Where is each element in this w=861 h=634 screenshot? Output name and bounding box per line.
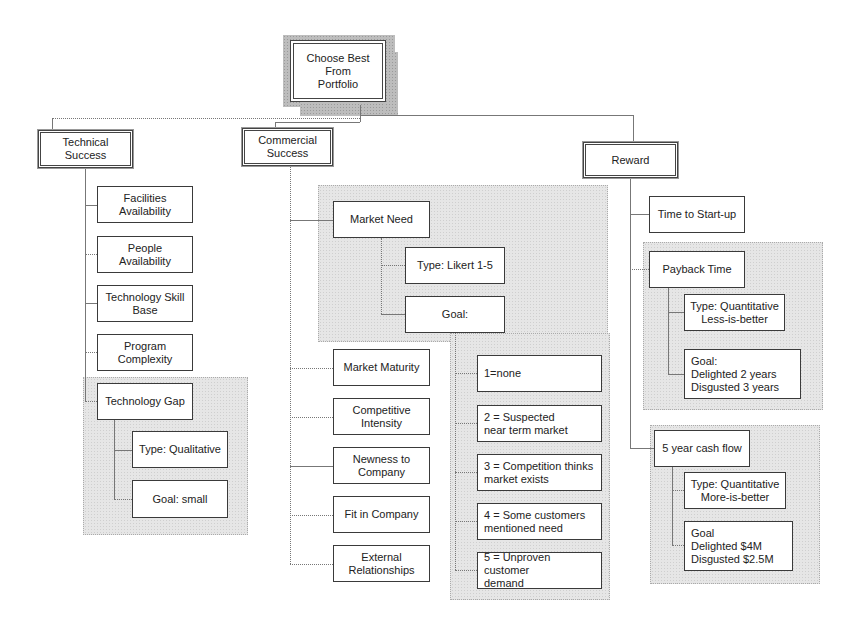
- node-label: 2 = Suspected near term market: [484, 411, 568, 437]
- connector: [85, 254, 97, 256]
- node-label: Goal Delighted $4M Disgusted $2.5M: [691, 527, 774, 566]
- people-availability-node: People Availability: [97, 236, 193, 273]
- connector: [633, 115, 634, 142]
- connector: [630, 448, 654, 449]
- connector: [668, 374, 684, 375]
- market-need-type-node: Type: Likert 1-5: [405, 247, 505, 284]
- connector: [290, 417, 333, 419]
- connector: [668, 287, 669, 375]
- cashflow-type-node: Type: Quantitative More-is-better: [684, 472, 786, 509]
- node-label: 3 = Competition thinks market exists: [484, 460, 593, 486]
- node-label: Goal: Delighted 2 years Disgusted 3 year…: [691, 355, 779, 394]
- time-to-startup-node: Time to Start-up: [649, 196, 745, 233]
- node-label: Technology Skill Base: [106, 291, 185, 317]
- connector: [381, 238, 383, 314]
- node-label: 1=none: [484, 367, 521, 380]
- node-label: Type: Quantitative Less-is-better: [690, 300, 779, 326]
- connector: [52, 118, 360, 120]
- scale-5-node: 5 = Unproven customer demand: [477, 552, 602, 589]
- connector: [630, 214, 649, 215]
- connector: [85, 303, 97, 304]
- node-label: Competitive Intensity: [352, 404, 410, 430]
- node-label: Technology Gap: [105, 395, 185, 408]
- cashflow-node: 5 year cash flow: [654, 430, 750, 467]
- node-label: Reward: [612, 154, 650, 167]
- competitive-intensity-node: Competitive Intensity: [333, 398, 430, 435]
- connector: [275, 122, 360, 123]
- commercial-success-node: Commercial Success: [242, 128, 333, 166]
- node-label: People Availability: [119, 242, 171, 268]
- node-label: Technical Success: [63, 136, 109, 162]
- node-label: Facilities Availability: [119, 192, 171, 218]
- facilities-availability-node: Facilities Availability: [97, 186, 193, 223]
- scale-1-node: 1=none: [477, 355, 602, 392]
- connector: [360, 115, 633, 116]
- connector: [114, 419, 115, 499]
- market-need-node: Market Need: [333, 201, 430, 238]
- node-label: Payback Time: [662, 263, 731, 276]
- connector: [381, 314, 405, 315]
- connector: [630, 269, 649, 271]
- technology-skill-base-node: Technology Skill Base: [97, 285, 193, 322]
- root-shadow-offset: [300, 100, 398, 116]
- technology-gap-node: Technology Gap: [97, 383, 193, 420]
- node-label: 4 = Some customers mentioned need: [484, 509, 585, 535]
- connector: [114, 450, 132, 451]
- payback-goal-node: Goal: Delighted 2 years Disgusted 3 year…: [684, 349, 801, 399]
- newness-to-company-node: Newness to Company: [333, 447, 430, 484]
- connector: [85, 205, 97, 206]
- node-label: Fit in Company: [345, 508, 419, 521]
- connector: [672, 466, 673, 546]
- program-complexity-node: Program Complexity: [97, 334, 193, 371]
- connector: [85, 352, 97, 354]
- node-label: Type: Quantitative More-is-better: [691, 478, 780, 504]
- node-label: Market Need: [350, 213, 413, 226]
- node-label: 5 = Unproven customer demand: [484, 551, 597, 590]
- fit-in-company-node: Fit in Company: [333, 496, 430, 533]
- connector: [455, 521, 477, 523]
- market-need-goal-node: Goal:: [405, 296, 505, 333]
- connector: [455, 472, 477, 474]
- connector: [455, 333, 457, 570]
- reward-node: Reward: [583, 142, 678, 178]
- connector: [360, 105, 361, 122]
- connector: [455, 570, 477, 572]
- scale-4-node: 4 = Some customers mentioned need: [477, 503, 602, 540]
- cashflow-goal-node: Goal Delighted $4M Disgusted $2.5M: [684, 521, 793, 571]
- node-label: Type: Likert 1-5: [417, 259, 493, 272]
- root-node: Choose Best From Portfolio: [290, 40, 386, 102]
- connector: [630, 178, 631, 448]
- connector: [290, 368, 333, 370]
- node-label: Goal:: [442, 308, 468, 321]
- scale-3-node: 3 = Competition thinks market exists: [477, 454, 602, 491]
- connector: [114, 499, 132, 501]
- node-label: 5 year cash flow: [662, 442, 741, 455]
- connector: [672, 490, 684, 492]
- node-label: External Relationships: [348, 551, 414, 577]
- node-label: Market Maturity: [344, 361, 420, 374]
- root-shadow-side: [385, 52, 398, 112]
- technical-success-node: Technical Success: [38, 130, 133, 168]
- market-maturity-node: Market Maturity: [333, 349, 430, 386]
- node-label: Commercial Success: [258, 134, 317, 160]
- connector: [381, 265, 405, 267]
- connector: [455, 373, 477, 375]
- connector: [52, 118, 53, 130]
- connector: [290, 166, 292, 564]
- scale-2-node: 2 = Suspected near term market: [477, 405, 602, 442]
- connector: [85, 401, 97, 403]
- connector: [668, 312, 684, 313]
- node-label: Goal: small: [152, 493, 207, 506]
- connector: [290, 466, 333, 467]
- connector: [290, 515, 333, 517]
- connector: [672, 545, 684, 547]
- node-label: Program Complexity: [118, 340, 172, 366]
- node-label: Type: Qualitative: [139, 443, 221, 456]
- connector: [455, 423, 477, 425]
- payback-time-node: Payback Time: [649, 251, 745, 288]
- decision-tree-diagram: Choose Best From Portfolio Technical Suc…: [0, 0, 861, 634]
- connector: [290, 564, 333, 566]
- node-label: Time to Start-up: [658, 208, 736, 221]
- payback-type-node: Type: Quantitative Less-is-better: [684, 294, 785, 331]
- technology-gap-type-node: Type: Qualitative: [132, 431, 228, 468]
